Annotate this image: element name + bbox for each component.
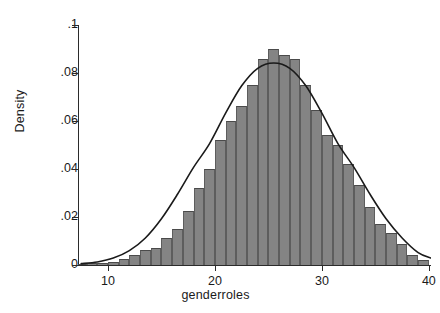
x-tick-mark <box>429 265 430 271</box>
x-tick-mark <box>108 265 109 271</box>
density-curve-path <box>81 63 431 264</box>
x-tick-mark <box>322 265 323 271</box>
x-tick-label: 30 <box>302 275 342 288</box>
x-axis-tick-labels: 10203040 <box>0 270 431 290</box>
x-tick-mark <box>215 265 216 271</box>
x-tick-label: 10 <box>88 275 128 288</box>
density-curve <box>78 20 431 265</box>
y-axis-label: Density <box>13 69 27 153</box>
y-tick-mark <box>72 169 78 170</box>
y-tick-mark <box>72 217 78 218</box>
x-tick-label: 40 <box>409 275 440 288</box>
y-tick-mark <box>72 73 78 74</box>
y-tick-mark <box>72 25 78 26</box>
y-tick-mark <box>72 121 78 122</box>
y-tick-mark <box>72 265 78 266</box>
x-tick-label: 20 <box>195 275 235 288</box>
plot-area <box>78 20 431 265</box>
y-axis-tick-labels: 0.02.04.06.08.1 <box>34 0 78 313</box>
